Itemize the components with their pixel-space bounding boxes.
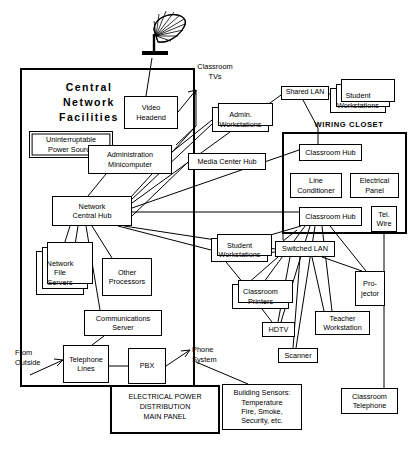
region-label-electrical-power-panel: ELECTRICAL POWER DISTRIBUTION MAIN PANEL [112,392,218,422]
network-diagram-canvas: Central Network Facilities WIRING CLOSET… [0,0,416,473]
line-phone-to-building-sensors [196,362,248,384]
node-other-processors[interactable]: Other Processors [102,258,152,296]
node-scanner[interactable]: Scanner [278,348,318,363]
label-classroom-tvs: Classroom TVs [185,62,245,81]
node-admin-workstations[interactable]: Admin. Workstations [212,107,269,132]
line-ch2-to-teacher-ws [322,226,332,311]
node-network-central-hub[interactable]: Network Central Hub [52,196,132,226]
node-telephone-lines[interactable]: Telephone Lines [63,345,109,383]
node-pbx[interactable]: PBX [128,348,166,384]
node-media-center-hub[interactable]: Media Center Hub [188,153,266,170]
node-electrical-panel[interactable]: Electrical Panel [350,173,399,198]
label-from-outside: From Outside [15,348,63,367]
node-tel-wire[interactable]: Tel. Wire [371,206,397,232]
line-printers-to-hdtv [262,309,272,322]
line-slan-to-teacher [312,257,324,311]
node-building-sensors[interactable]: Building Sensors: Temperature Fire, Smok… [222,384,302,430]
node-classroom-hub-1[interactable]: Classroom Hub [299,144,362,161]
region-label-central-network-facilities: Central Network Facilities [24,80,154,126]
node-network-file-servers[interactable]: Network File Servers [36,251,84,295]
node-communications-server[interactable]: Communications Server [84,310,162,336]
node-classroom-printers[interactable]: Classroom Printers [232,284,289,309]
node-classroom-telephone[interactable]: Classroom Telephone [341,388,398,414]
node-projector[interactable]: Pro- jector [355,271,385,306]
node-teacher-workstation[interactable]: Teacher Workstation [315,311,370,335]
label-phone-system: Phone System [192,345,240,364]
node-administration-minicomputer[interactable]: Administration Minicomputer [88,145,172,174]
region-label-wiring-closet: WIRING CLOSET [294,120,404,129]
node-line-conditioner[interactable]: Line Conditioner [290,173,342,198]
satellite-dish-icon [138,8,190,60]
node-student-workstations-top[interactable]: Student Workstations [330,88,386,113]
node-shared-lan[interactable]: Shared LAN [281,86,329,100]
node-student-workstations-bottom[interactable]: Student Workstations [211,238,268,262]
node-switched-lan[interactable]: Switched LAN [275,241,335,257]
node-hdtv[interactable]: HDTV [262,322,295,337]
node-classroom-hub-2[interactable]: Classroom Hub [299,207,362,226]
